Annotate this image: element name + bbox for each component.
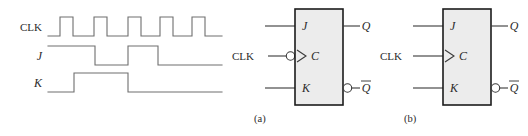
figure-caption-a: (a)	[254, 113, 266, 125]
figure-caption-b: (b)	[404, 113, 417, 125]
flipflop-symbols-panel: CLKJCKQQ(a)CLKJCKQQ(b)	[0, 0, 528, 136]
pin-label-clk-a: C	[311, 49, 320, 63]
pin-label-clk-b: C	[459, 49, 468, 63]
figure-root: CLKJK CLKJCKQQ(a)CLKJCKQQ(b)	[0, 0, 528, 136]
input-clk-a: CLK	[232, 50, 295, 62]
output-label-q-b: Q	[510, 19, 519, 33]
output-qbar-a: Q	[343, 81, 371, 95]
inversion-bubble-qbar-a	[343, 84, 351, 92]
output-qbar-b: Q	[491, 81, 519, 95]
external-label-clk-a: CLK	[232, 50, 254, 62]
pin-label-j-a: J	[302, 19, 308, 33]
flipflop-symbol-a: CLKJCKQQ(a)	[232, 9, 371, 125]
output-label-qbar-b: Q	[510, 81, 519, 95]
pin-label-j-b: J	[450, 19, 456, 33]
inversion-bubble-clk-a	[286, 52, 294, 60]
input-clk-b: CLK	[380, 50, 443, 62]
output-q-b: Q	[491, 19, 519, 33]
pin-label-k-a: K	[301, 81, 311, 95]
flipflop-symbol-b: CLKJCKQQ(b)	[380, 9, 519, 125]
output-q-a: Q	[343, 19, 371, 33]
pin-label-k-b: K	[449, 81, 459, 95]
output-label-q-a: Q	[362, 19, 371, 33]
inversion-bubble-qbar-b	[491, 84, 499, 92]
output-label-qbar-a: Q	[362, 81, 371, 95]
external-label-clk-b: CLK	[380, 50, 402, 62]
